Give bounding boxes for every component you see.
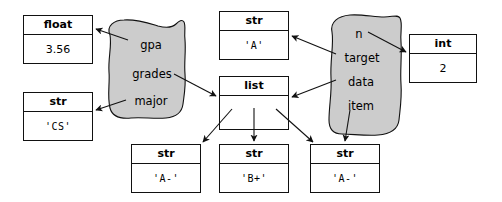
object-value-label: 'A'	[220, 31, 288, 60]
object-box-str-a[interactable]: str 'A'	[219, 11, 289, 60]
field-label-major: major	[122, 94, 180, 108]
object-value-label: 2	[410, 54, 476, 83]
object-value-label: 'A-'	[311, 164, 379, 193]
object-box-str-item1[interactable]: str 'B+'	[219, 144, 289, 193]
object-value-label: 3.56	[24, 35, 92, 64]
object-box-str-item2[interactable]: str 'A-'	[310, 144, 380, 193]
object-value-label	[220, 96, 288, 130]
object-type-label: str	[311, 145, 379, 164]
object-value-label: 'B+'	[220, 164, 288, 193]
object-type-label: str	[220, 145, 288, 164]
field-label-item: item	[340, 99, 382, 113]
field-label-grades: grades	[121, 67, 183, 81]
object-value-label: 'A-'	[132, 164, 200, 193]
field-label-gpa: gpa	[128, 38, 174, 52]
object-box-str-major[interactable]: str 'CS'	[23, 92, 93, 141]
object-type-label: int	[410, 35, 476, 54]
object-box-float-gpa[interactable]: float 3.56	[23, 15, 93, 64]
field-label-data: data	[338, 75, 384, 89]
object-type-label: str	[24, 93, 92, 112]
object-type-label: str	[132, 145, 200, 164]
object-value-label: 'CS'	[24, 112, 92, 141]
field-label-n: n	[345, 27, 373, 41]
field-label-target: target	[336, 51, 388, 65]
object-box-int-two[interactable]: int 2	[409, 34, 477, 83]
object-box-list-grades[interactable]: list	[219, 76, 289, 130]
object-type-label: list	[220, 77, 288, 96]
object-type-label: str	[220, 12, 288, 31]
object-type-label: float	[24, 16, 92, 35]
diagram-canvas: float 3.56 str 'CS' str 'A' list int 2 s…	[0, 0, 502, 202]
object-box-str-item0[interactable]: str 'A-'	[131, 144, 201, 193]
